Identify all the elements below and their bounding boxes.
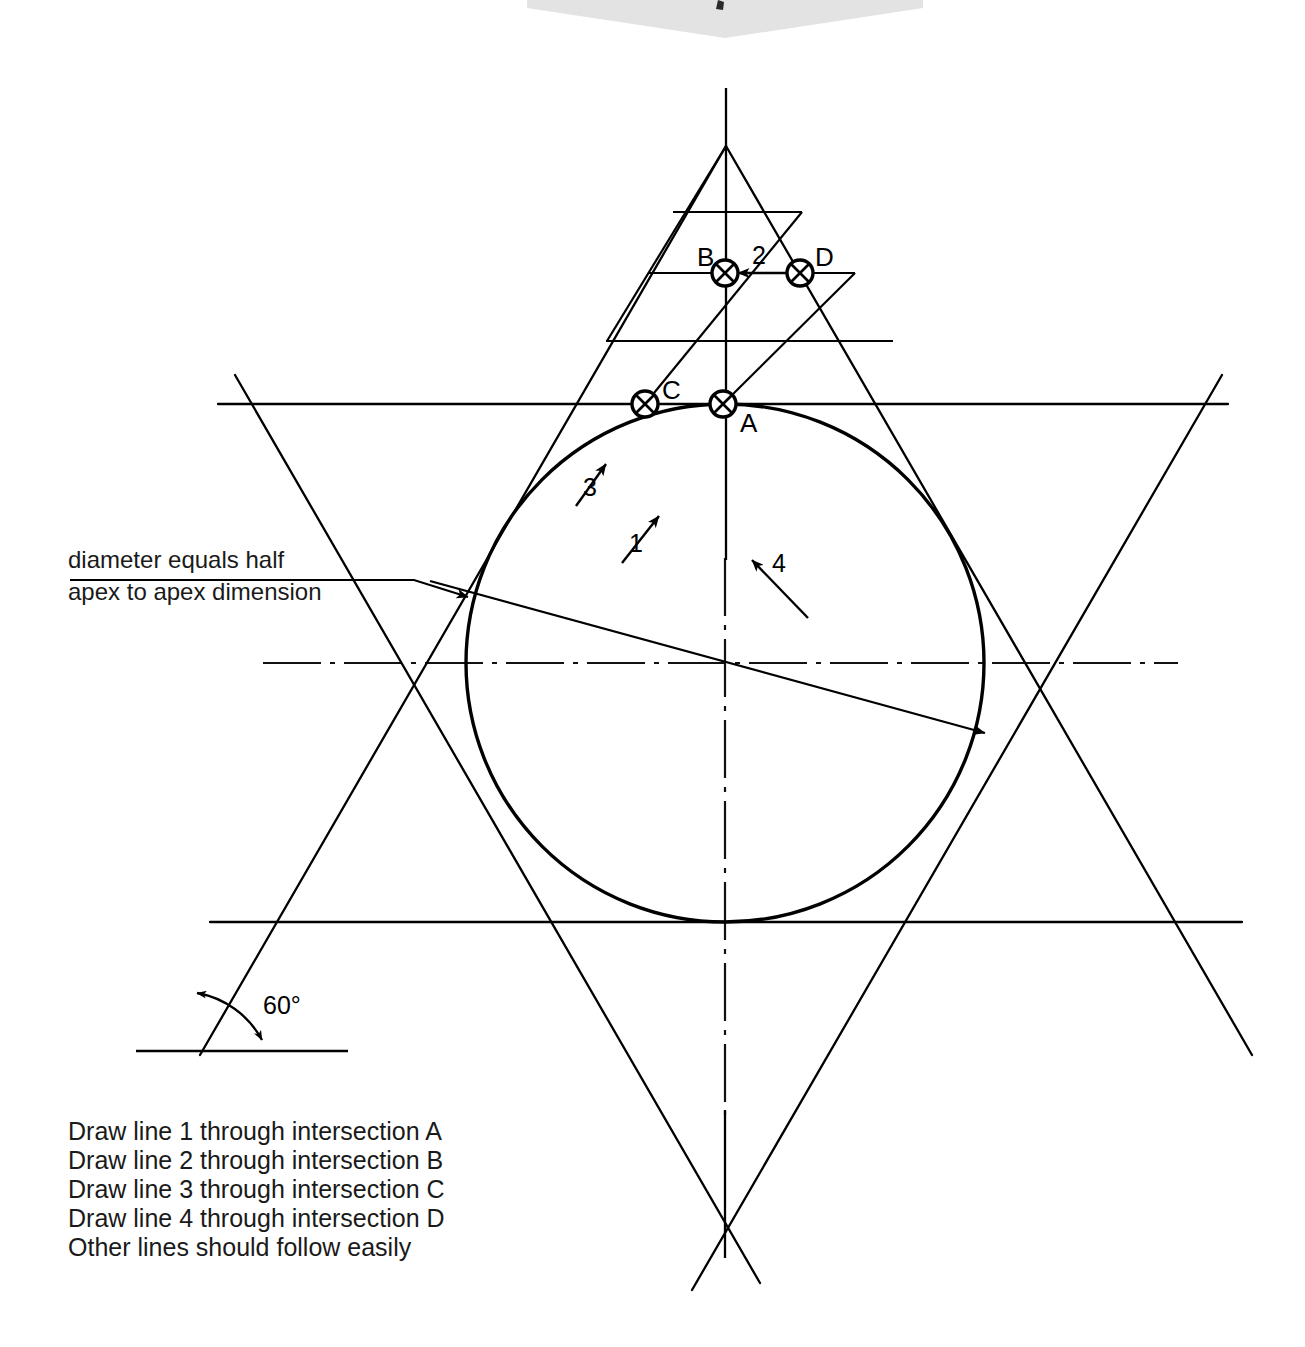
label-B: B xyxy=(697,242,714,272)
intersection-marker-C xyxy=(632,391,658,417)
label-C: C xyxy=(662,375,681,405)
instruction-line-1: Draw line 1 through intersection A xyxy=(68,1117,442,1145)
ladder-diagonal-c xyxy=(723,273,855,404)
angle-dimension-60 xyxy=(136,993,348,1051)
down-tri-right-leg xyxy=(692,375,1222,1290)
marked-intersections xyxy=(632,260,813,417)
drawing-page: A B C D 1 2 3 4 60° diameter equals half… xyxy=(0,0,1305,1347)
label-line-3: 3 xyxy=(583,473,597,501)
angle-arc xyxy=(197,993,262,1040)
instruction-line-3: Draw line 3 through intersection C xyxy=(68,1175,445,1203)
instruction-line-2: Draw line 2 through intersection B xyxy=(68,1146,443,1174)
label-A: A xyxy=(740,408,758,438)
instruction-line-4: Draw line 4 through intersection D xyxy=(68,1204,445,1232)
label-D: D xyxy=(815,242,834,272)
intersection-marker-D xyxy=(787,260,813,286)
centerlines xyxy=(263,558,1178,1115)
intersection-marker-B xyxy=(712,260,738,286)
diameter-note-line-2: apex to apex dimension xyxy=(68,578,322,605)
angle-dimension-label: 60° xyxy=(263,991,301,1019)
diameter-note-line-1: diameter equals half xyxy=(68,546,284,573)
diameter-note: diameter equals half apex to apex dimens… xyxy=(68,546,322,605)
label-line-1: 1 xyxy=(629,529,643,557)
instruction-line-5: Other lines should follow easily xyxy=(68,1233,412,1261)
label-line-4: 4 xyxy=(772,549,786,577)
page-banner-chevron xyxy=(527,0,923,38)
intersection-marker-A xyxy=(710,391,736,417)
diameter-leader-right xyxy=(430,581,985,733)
instruction-block: Draw line 1 through intersection A Draw … xyxy=(68,1117,445,1261)
label-line-2: 2 xyxy=(752,241,766,269)
technical-drawing-canvas: A B C D 1 2 3 4 60° diameter equals half… xyxy=(0,0,1305,1347)
